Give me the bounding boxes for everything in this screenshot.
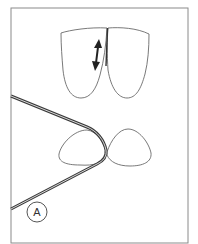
panel-label: A bbox=[27, 202, 47, 222]
panel-label-text: A bbox=[33, 206, 41, 218]
upper-tooth-pair bbox=[61, 28, 149, 98]
diagram-canvas: A bbox=[0, 0, 198, 244]
upper-right-tooth bbox=[107, 28, 149, 98]
wire-loop-highlight bbox=[11, 96, 106, 209]
double-arrow-icon bbox=[92, 39, 102, 71]
upper-left-tooth bbox=[61, 28, 107, 98]
lower-right-tooth bbox=[107, 129, 151, 166]
wire-loop bbox=[11, 96, 106, 209]
